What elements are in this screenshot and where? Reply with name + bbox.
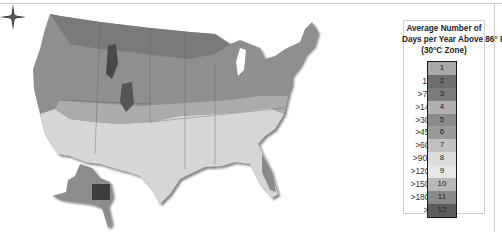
legend-title-line1: Average Number of: [404, 23, 484, 34]
zone-swatch: 6: [428, 126, 456, 139]
zone-swatch: 7: [428, 139, 456, 152]
legend-title-line3: (30°C Zone): [404, 45, 484, 56]
zone-swatch: 12: [428, 204, 456, 217]
alaska: [52, 164, 113, 228]
legend-swatch-column: 1 2 3 4 5 6 7 8 9 10 11 12: [427, 61, 457, 218]
zone-swatch: 2: [428, 75, 456, 88]
zone-swatch: 9: [428, 165, 456, 178]
compass-rose-icon: [0, 4, 26, 30]
zone-swatch: 4: [428, 101, 456, 114]
legend-title-line2: Days per Year Above 86° F: [402, 34, 486, 45]
zone-swatch: 8: [428, 152, 456, 165]
zone-swatch: 5: [428, 114, 456, 127]
zone-swatch: 3: [428, 88, 456, 101]
zone-swatch: 1: [428, 62, 456, 75]
legend-title: Average Number of Days per Year Above 86…: [404, 23, 484, 56]
zone-swatch: 11: [428, 191, 456, 204]
us-map-graphic: [0, 4, 360, 232]
zone-swatch: 10: [428, 178, 456, 191]
heat-zone-map: [0, 4, 360, 232]
